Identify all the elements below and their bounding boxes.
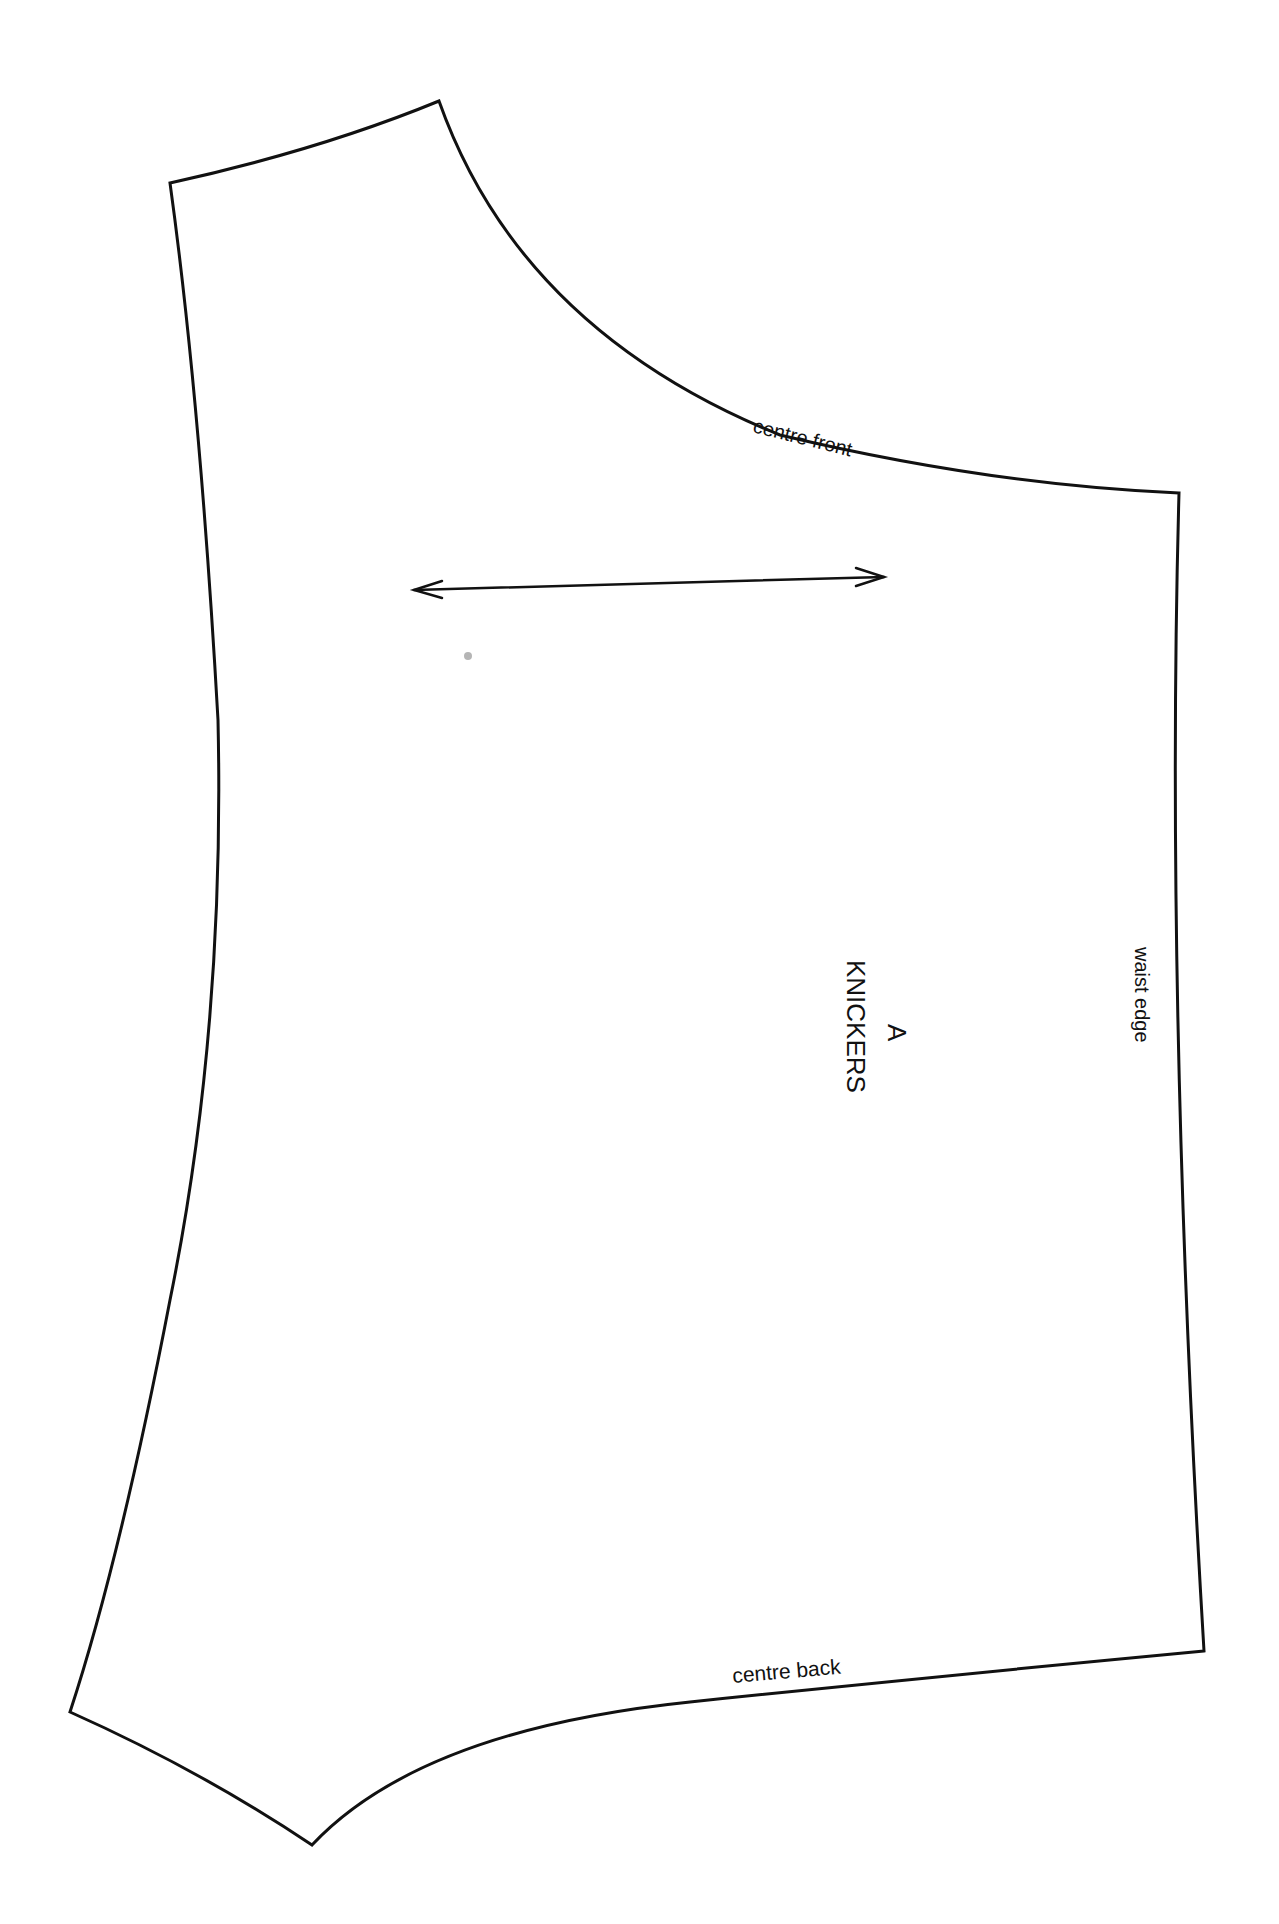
pattern-outline [70,101,1204,1845]
label-centre-back: centre back [731,1655,842,1687]
piece-letter: A [882,1024,912,1042]
label-centre-front: centre front [751,415,855,461]
grainline-arrow-icon [414,568,884,598]
label-waist-edge: waist edge [1131,946,1153,1043]
piece-name: KNICKERS [841,960,871,1093]
paper-speck [464,652,472,660]
pattern-sheet: centre front centre back waist edge A KN… [0,0,1279,1924]
